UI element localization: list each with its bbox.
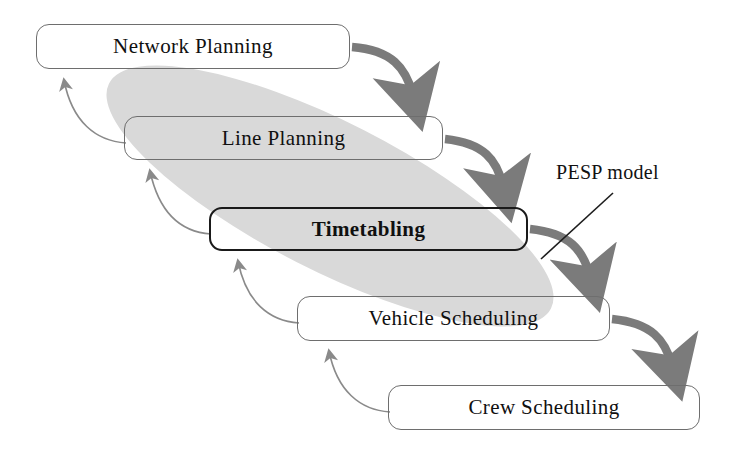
node-line-planning[interactable]: Line Planning <box>124 116 443 160</box>
forward-arrow-network-to-line <box>352 47 413 95</box>
node-label: Timetabling <box>312 217 426 242</box>
pesp-model-annotation: PESP model <box>556 161 659 184</box>
forward-arrow-line-to-timetabling <box>445 139 503 186</box>
diagram-canvas: Network Planning Line Planning Timetabli… <box>0 0 738 462</box>
node-network-planning[interactable]: Network Planning <box>36 24 350 69</box>
node-label: Line Planning <box>222 126 346 151</box>
node-label: Network Planning <box>113 34 273 59</box>
forward-arrow-vehicle-to-crew <box>612 319 672 365</box>
feedback-arrow-vehicle-to-timetabling <box>238 261 299 323</box>
feedback-arrow-crew-to-vehicle <box>329 351 390 412</box>
node-label: Vehicle Scheduling <box>369 306 539 331</box>
node-vehicle-scheduling[interactable]: Vehicle Scheduling <box>297 296 610 341</box>
node-timetabling[interactable]: Timetabling <box>209 207 528 251</box>
node-label: Crew Scheduling <box>468 395 619 420</box>
node-crew-scheduling[interactable]: Crew Scheduling <box>388 385 700 430</box>
